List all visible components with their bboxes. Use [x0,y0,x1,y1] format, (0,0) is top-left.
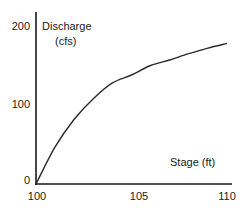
x-tick-100: 100 [22,190,52,202]
plot-area [0,0,244,211]
y-axis-title-line1: Discharge [42,20,92,32]
y-axis-title-line2: (cfs) [55,35,76,47]
y-tick-0: 0 [6,174,30,186]
x-axis-title: Stage (ft) [170,156,215,168]
y-tick-100: 100 [6,98,30,110]
x-tick-110: 110 [212,190,242,202]
rating-curve-chart: 200 100 0 100 105 110 Discharge (cfs) St… [0,0,244,211]
x-tick-105: 105 [124,190,154,202]
y-tick-200: 200 [6,20,30,32]
